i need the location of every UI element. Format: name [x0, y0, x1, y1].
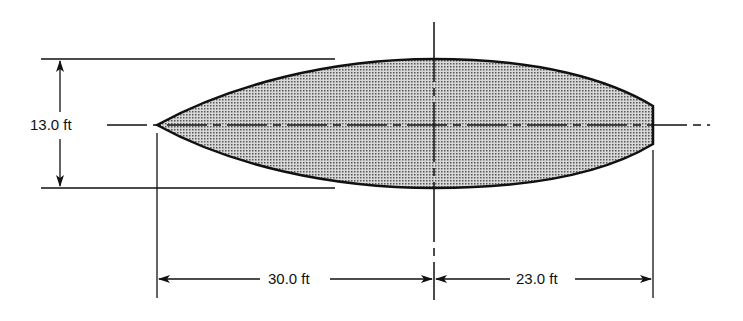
front-length-label: 30.0 ft — [268, 271, 310, 287]
rear-length-label: 23.0 ft — [516, 271, 558, 287]
height-dimension-label: 13.0 ft — [30, 117, 72, 133]
body-profile-drawing — [0, 0, 743, 321]
body-shape — [157, 59, 653, 188]
diagram-canvas: 13.0 ft 30.0 ft 23.0 ft — [0, 0, 743, 321]
